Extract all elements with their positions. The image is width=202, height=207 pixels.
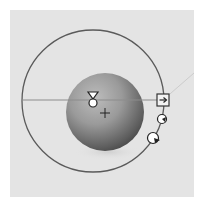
rotate-knob-icon[interactable] bbox=[148, 133, 161, 144]
arrow-right-box-icon[interactable] bbox=[157, 94, 169, 106]
rotate-knob-icon[interactable] bbox=[158, 115, 167, 124]
light-gizmo[interactable] bbox=[0, 0, 202, 207]
